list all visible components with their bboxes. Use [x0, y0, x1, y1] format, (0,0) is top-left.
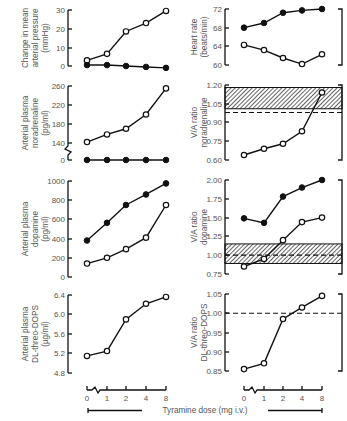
x-tick-label: 8 — [164, 394, 169, 403]
x-axis-left: 01248 — [85, 386, 169, 403]
y-tick-label: 4.8 — [54, 369, 66, 378]
y-axis-label-line: noradrenaline — [31, 98, 40, 149]
figure: 3020100Change in meanarterial pressure(m… — [0, 0, 347, 421]
open-circle-marker — [163, 86, 168, 91]
panel-va-noradrenaline: 1.201.050.900.750.60V/A rationoradrenali… — [190, 81, 345, 165]
normal-range-band — [225, 244, 342, 264]
y-tick-label: 140 — [52, 139, 66, 148]
open-circle-marker — [163, 202, 168, 207]
y-axis-label-line: dopamine — [200, 209, 209, 245]
y-tick-label: 0 — [61, 156, 66, 165]
open-circle-marker — [104, 51, 109, 56]
filled-circle-marker — [84, 238, 90, 244]
open-circle-marker — [84, 139, 89, 144]
open-circle-marker — [280, 141, 285, 146]
y-tick-label: 20 — [56, 25, 65, 34]
panel-noradrenaline: 2602201801400Arterial plasmanoradrenalin… — [21, 82, 169, 165]
right-bracket — [338, 9, 342, 65]
x-tick-label: 1 — [262, 394, 267, 403]
open-circle-marker — [241, 42, 246, 47]
open-circle-marker — [123, 126, 128, 131]
x-tick-label: 2 — [281, 394, 286, 403]
open-circle-marker — [241, 366, 246, 371]
series-line-open — [87, 297, 166, 356]
open-circle-marker — [299, 219, 304, 224]
y-tick-label: 0.85 — [206, 367, 222, 376]
panel-map: 3020100Change in meanarterial pressure(m… — [21, 6, 169, 71]
y-tick-label: 10 — [56, 44, 65, 53]
y-tick-label: 800 — [52, 196, 66, 205]
x-tick-label: 0 — [242, 394, 247, 403]
x-tick-label: 2 — [124, 394, 129, 403]
panel-heart-rate: 72686460Heart rate(beats/min) — [190, 5, 342, 70]
open-circle-marker — [143, 235, 148, 240]
y-tick-label: 200 — [52, 254, 66, 263]
open-circle-marker — [319, 90, 324, 95]
filled-circle-marker — [84, 62, 90, 68]
filled-circle-marker — [163, 157, 169, 163]
x-tick-label: 4 — [300, 394, 305, 403]
series-line-filled — [87, 183, 166, 240]
open-circle-marker — [84, 261, 89, 266]
series-line-filled — [244, 180, 322, 223]
open-circle-marker — [299, 61, 304, 66]
filled-circle-marker — [104, 220, 110, 226]
open-circle-marker — [261, 146, 266, 151]
open-circle-marker — [143, 20, 148, 25]
series-line-open — [87, 11, 166, 60]
y-axis-label-line: dopamine — [31, 211, 40, 247]
x-tick-label: 0 — [85, 394, 90, 403]
y-axis-label-line: noradrenaline — [200, 97, 209, 148]
open-circle-marker — [241, 264, 246, 269]
y-tick-label: 60 — [213, 61, 222, 70]
y-tick-label: 6.4 — [54, 291, 66, 300]
open-circle-marker — [319, 215, 324, 220]
open-circle-marker — [163, 8, 168, 13]
y-axis-label-line: Arterial plasma — [21, 306, 30, 361]
y-tick-label: 0.75 — [206, 270, 222, 279]
open-circle-marker — [104, 255, 109, 260]
y-tick-label: 2.00 — [206, 176, 222, 185]
y-tick-label: 260 — [52, 82, 66, 91]
series-line-open — [87, 205, 166, 264]
y-axis-label-line: Heart rate — [190, 18, 199, 55]
y-axis-label-line: V/A ratio — [190, 317, 199, 348]
y-tick-label: 600 — [52, 215, 66, 224]
open-circle-marker — [280, 316, 285, 321]
open-circle-marker — [299, 129, 304, 134]
y-tick-label: 0 — [61, 62, 66, 71]
y-tick-label: 180 — [52, 120, 66, 129]
open-circle-marker — [299, 305, 304, 310]
y-axis-label-line: DL-threo-DOPS — [200, 303, 209, 361]
filled-circle-marker — [104, 157, 110, 163]
multi-panel-chart: 3020100Change in meanarterial pressure(m… — [0, 0, 347, 421]
open-circle-marker — [319, 52, 324, 57]
y-tick-label: 1.00 — [206, 251, 222, 260]
y-axis-broken — [65, 86, 71, 160]
filled-circle-marker — [104, 62, 110, 68]
y-tick-label: 5.6 — [54, 330, 66, 339]
y-tick-label: 64 — [213, 42, 222, 51]
open-circle-marker — [261, 256, 266, 261]
y-tick-label: 1000 — [47, 177, 65, 186]
filled-circle-marker — [123, 157, 129, 163]
open-circle-marker — [143, 301, 148, 306]
open-circle-marker — [163, 294, 168, 299]
open-circle-marker — [123, 29, 128, 34]
x-tick-label: 4 — [144, 394, 149, 403]
y-tick-label: 1.75 — [206, 195, 222, 204]
filled-circle-marker — [261, 220, 267, 226]
filled-circle-marker — [299, 8, 305, 14]
y-tick-label: 72 — [213, 5, 222, 14]
open-circle-marker — [123, 246, 128, 251]
y-axis-label-line: Change in mean — [21, 8, 30, 69]
y-tick-label: 1.20 — [206, 81, 222, 90]
open-circle-marker — [123, 317, 128, 322]
y-axis-label-line: (µg/ml) — [41, 321, 50, 347]
open-circle-marker — [104, 132, 109, 137]
y-tick-label: 5.2 — [54, 349, 66, 358]
dose-range-bar-left — [88, 408, 142, 413]
panel-va-dops: 1.051.000.950.900.85V/A ratioDL-threo-DO… — [190, 290, 345, 376]
filled-circle-marker — [123, 202, 129, 208]
filled-circle-marker — [299, 185, 305, 191]
